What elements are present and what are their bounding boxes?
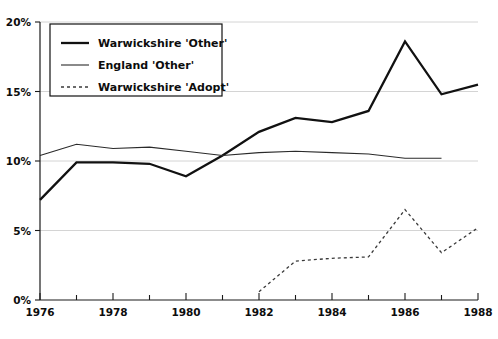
x-axis-tick-label: 1980 [171,306,200,318]
line-chart: 0%5%10%15%20% 19761978198019821984198619… [0,0,498,339]
series-england-other [40,144,442,158]
y-axis-tick-label: 10% [6,155,32,167]
x-axis-tick-label: 1982 [244,306,273,318]
legend-label-warwickshire-adopt: Warwickshire 'Adopt' [98,81,229,94]
x-axis-tick-label: 1986 [390,306,419,318]
legend-label-england-other: England 'Other' [98,59,194,72]
chart-canvas: 0%5%10%15%20% 19761978198019821984198619… [0,0,498,339]
series-warwickshire-adopt [259,210,478,292]
x-axis-tick-label: 1976 [25,306,54,318]
x-axis-tick-label: 1984 [317,306,346,318]
y-axis-tick-label: 20% [6,16,32,28]
legend: Warwickshire 'Other' England 'Other' War… [50,24,229,96]
y-axis-tick-label: 15% [6,86,32,98]
y-axis-tick-labels: 0%5%10%15%20% [6,16,32,306]
legend-label-warwickshire-other: Warwickshire 'Other' [98,37,227,50]
x-axis-tick-label: 1978 [98,306,127,318]
y-axis-tick-label: 5% [13,225,31,237]
x-axis-ticks [40,293,478,300]
x-axis: 1976197819801982198419861988 [25,293,492,318]
y-axis: 0%5%10%15%20% [6,16,40,306]
x-axis-tick-labels: 1976197819801982198419861988 [25,306,492,318]
y-axis-ticks [35,22,40,300]
y-axis-tick-label: 0% [13,294,31,306]
x-axis-tick-label: 1988 [463,306,492,318]
